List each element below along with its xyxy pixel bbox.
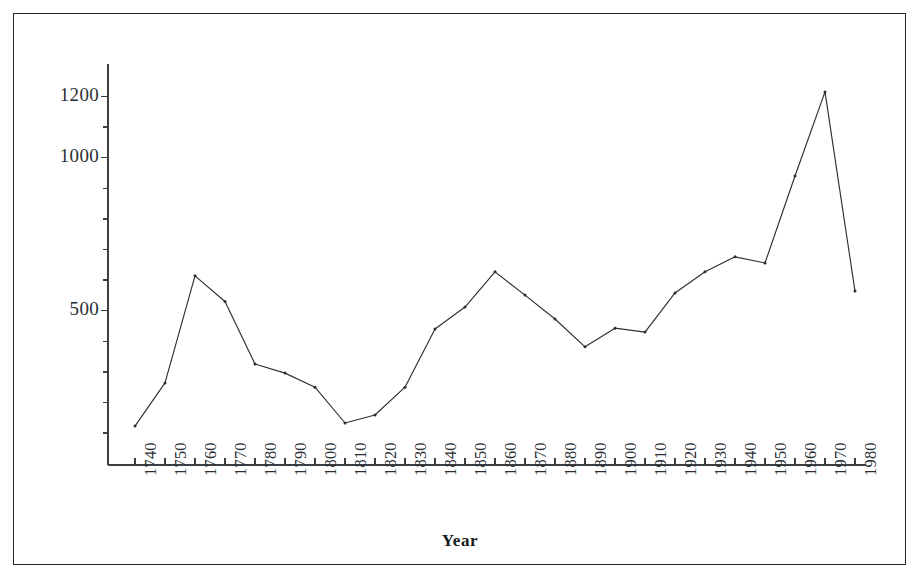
x-axis-title: Year	[0, 531, 920, 551]
plot-canvas	[0, 0, 920, 579]
x-axis-tick-label: 1890	[591, 442, 611, 476]
x-axis-tick-label: 1940	[741, 442, 761, 476]
x-axis-tick-label: 1770	[231, 442, 251, 476]
x-axis-tick-label: 1840	[441, 442, 461, 476]
x-axis-tick-label: 1740	[141, 442, 161, 476]
data-point-marker	[164, 381, 167, 384]
y-axis-tick-label: 1000	[43, 145, 99, 167]
page-root: 50010001200 1740175017601770178017901800…	[0, 0, 920, 579]
data-point-marker	[794, 175, 797, 178]
data-point-marker	[194, 274, 197, 277]
x-axis-tick-label: 1870	[531, 442, 551, 476]
y-axis-tick-label: 500	[43, 298, 99, 320]
data-point-marker	[554, 317, 557, 320]
chart-figure: 50010001200 1740175017601770178017901800…	[0, 0, 920, 579]
data-point-marker	[764, 261, 767, 264]
data-point-marker	[224, 300, 227, 303]
x-axis-tick-label: 1960	[801, 442, 821, 476]
x-axis-tick-label: 1780	[261, 442, 281, 476]
data-point-marker	[824, 90, 827, 93]
data-point-marker	[734, 255, 737, 258]
data-point-marker	[584, 345, 587, 348]
x-axis-tick-label: 1900	[621, 442, 641, 476]
y-axis-tick-label: 1200	[43, 84, 99, 106]
data-point-marker	[374, 414, 377, 417]
x-axis-tick-label: 1820	[381, 442, 401, 476]
data-point-marker	[644, 331, 647, 334]
x-axis-tick-label: 1850	[471, 442, 491, 476]
x-axis-tick-label: 1950	[771, 442, 791, 476]
data-point-marker	[854, 290, 857, 293]
axes-group	[101, 64, 866, 465]
data-point-marker	[404, 386, 407, 389]
x-axis-tick-label: 1910	[651, 442, 671, 476]
x-axis-tick-label: 1810	[351, 442, 371, 476]
data-point-marker	[344, 422, 347, 425]
data-point-marker	[314, 386, 317, 389]
data-point-marker	[464, 306, 467, 309]
x-axis-tick-label: 1790	[291, 442, 311, 476]
x-axis-tick-label: 1830	[411, 442, 431, 476]
data-point-marker	[494, 270, 497, 273]
data-series-group	[135, 92, 855, 426]
x-axis-tick-label: 1760	[201, 442, 221, 476]
data-point-marker	[704, 270, 707, 273]
data-point-marker	[524, 294, 527, 297]
data-point-marker	[434, 328, 437, 331]
x-axis-tick-label: 1970	[831, 442, 851, 476]
data-point-marker	[254, 362, 257, 365]
x-axis-tick-label: 1930	[711, 442, 731, 476]
data-point-marker	[134, 425, 137, 428]
x-axis-tick-label: 1860	[501, 442, 521, 476]
x-axis-tick-label: 1980	[861, 442, 881, 476]
x-axis-tick-label: 1920	[681, 442, 701, 476]
data-point-marker	[674, 291, 677, 294]
data-point-marker	[614, 327, 617, 330]
x-axis-tick-label: 1880	[561, 442, 581, 476]
data-point-marker	[284, 372, 287, 375]
data-line	[135, 92, 855, 426]
x-axis-tick-label: 1750	[171, 442, 191, 476]
x-axis-tick-label: 1800	[321, 442, 341, 476]
